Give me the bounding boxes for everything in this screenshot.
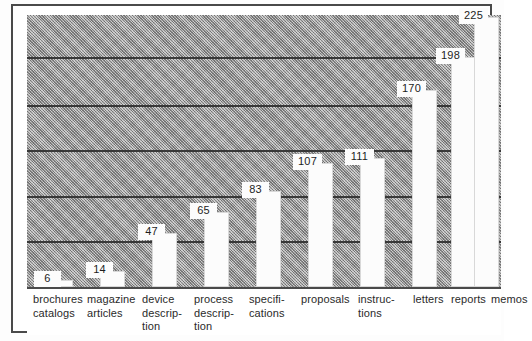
category-label-band: brochures catalogs magazine articles dev… (27, 287, 501, 335)
bar-value-label: 225 (459, 8, 488, 24)
bar-value-label: 6 (34, 271, 61, 287)
category-label-magazine-articles: magazine articles (87, 293, 139, 320)
category-label-reports: reports (451, 293, 495, 307)
scan-speck (167, 63, 169, 65)
scan-speck (267, 165, 269, 167)
category-label-device-description: device descrip- tion (142, 293, 194, 334)
category-label-proposals: proposals (301, 293, 357, 307)
bar-value-label: 47 (138, 224, 165, 240)
bar-reports[interactable] (451, 57, 476, 287)
bar-value-label: 198 (436, 48, 465, 64)
bar-proposals[interactable] (308, 163, 333, 287)
category-label-instructions: instruc- tions (358, 293, 410, 320)
bar-value-label: 170 (397, 81, 426, 97)
bar-letters[interactable] (412, 90, 437, 287)
bar-value-label: 83 (242, 182, 269, 198)
category-label-brochures-catalogs: brochures catalogs (33, 293, 85, 320)
bar-value-label: 14 (86, 262, 113, 278)
bar-process-description[interactable] (204, 212, 229, 287)
bar-memos[interactable] (474, 17, 499, 287)
plot-area (27, 15, 501, 287)
category-label-process-description: process descrip- tion (194, 293, 246, 334)
bar-instructions[interactable] (360, 158, 385, 287)
category-label-specifications: specifi- cations (249, 293, 299, 320)
bar-value-label: 107 (293, 154, 322, 170)
bar-value-label: 111 (345, 149, 374, 165)
category-label-memos: memos (491, 293, 532, 307)
bar-specifications[interactable] (256, 191, 281, 287)
chart-frame: 6 14 47 65 83 107 111 170 198 225 brochu… (11, 4, 492, 333)
bar-value-label: 65 (190, 203, 217, 219)
gridline-200 (27, 57, 501, 59)
bar-device-description[interactable] (152, 233, 177, 287)
scan-speck (309, 25, 312, 28)
